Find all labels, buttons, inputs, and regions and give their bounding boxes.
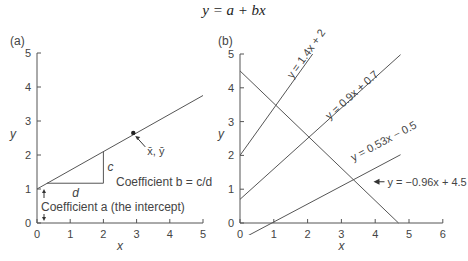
mean-point-label: x̄, ȳ [147, 145, 165, 157]
panel-b-chart: (b)0123450123456yxy = 1.4x + 2y = 0.9x +… [217, 27, 467, 253]
x-tick-label: 4 [372, 228, 378, 240]
x-tick-label: 5 [200, 228, 206, 240]
arrow-down-icon [42, 217, 46, 221]
annotation-coefficient-b: Coefficient b = c/d [116, 175, 212, 189]
x-tick-label: 6 [440, 228, 446, 240]
triangle-d-label: d [72, 186, 79, 200]
triangle-c-label: c [107, 160, 113, 174]
x-tick-label: 2 [305, 228, 311, 240]
equation-label: y = 0.53x − 0.5 [349, 119, 419, 164]
equation-label: y = 1.4x + 2 [284, 27, 327, 81]
x-tick-label: 0 [237, 228, 243, 240]
y-axis-label: y [9, 127, 17, 141]
x-tick-label: 3 [134, 228, 140, 240]
x-tick-label: 4 [167, 228, 173, 240]
arrow-up-icon [42, 189, 46, 193]
y-tick-label: 0 [228, 217, 234, 229]
annotation-coefficient-a: Coefficient a (the intercept) [41, 200, 185, 214]
y-tick-label: 5 [228, 48, 234, 60]
y-tick-label: 0 [25, 217, 31, 229]
y-tick-label: 3 [25, 115, 31, 127]
y-axis-label: y [217, 127, 225, 141]
y-tick-label: 4 [228, 82, 234, 94]
panel-label: (a) [10, 34, 25, 48]
x-tick-label: 2 [100, 228, 106, 240]
equation-label: y = −0.96x + 4.5 [388, 176, 467, 188]
panel-a-chart: (a)012345012345yxx̄, ȳdcCoefficient b = … [9, 34, 212, 253]
x-axis-label: x [337, 239, 345, 253]
x-tick-label: 1 [271, 228, 277, 240]
figure: (a)012345012345yxx̄, ȳdcCoefficient b = … [0, 0, 468, 261]
panel-label: (b) [218, 34, 233, 48]
y-tick-label: 3 [228, 116, 234, 128]
y-tick-label: 5 [25, 47, 31, 59]
x-tick-label: 1 [67, 228, 73, 240]
mean-point [131, 131, 135, 135]
x-tick-label: 5 [406, 228, 412, 240]
y-tick-label: 2 [228, 149, 234, 161]
x-tick-label: 0 [34, 228, 40, 240]
y-tick-label: 1 [25, 183, 31, 195]
equation-label: y = 0.9x + 0.7 [323, 68, 381, 122]
y-tick-label: 4 [25, 81, 31, 93]
y-tick-label: 1 [228, 183, 234, 195]
arrow-icon [135, 136, 140, 140]
x-axis-label: x [116, 239, 124, 253]
y-tick-label: 2 [25, 149, 31, 161]
